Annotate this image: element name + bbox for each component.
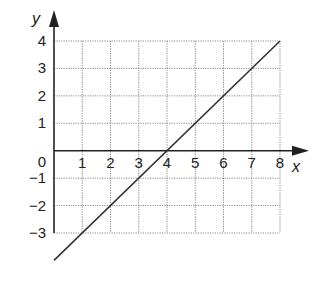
- x-tick-label: 2: [106, 154, 114, 171]
- y-axis-arrow-icon: [49, 10, 59, 27]
- x-axis-arrow-icon: [292, 146, 309, 156]
- tick-labels: 1234567843210−1−2−3: [29, 32, 284, 241]
- y-tick-label: 4: [38, 32, 46, 49]
- x-tick-label: 3: [135, 154, 143, 171]
- y-tick-label: 2: [38, 87, 46, 104]
- x-axis-label: x: [291, 158, 301, 175]
- line-chart: 1234567843210−1−2−3 y x: [0, 0, 325, 287]
- x-tick-label: 1: [78, 154, 86, 171]
- y-tick-label: 1: [38, 114, 46, 131]
- y-tick-label: −1: [29, 169, 46, 186]
- grid-lines: [54, 41, 280, 233]
- x-tick-label: 4: [163, 154, 171, 171]
- x-tick-label: 7: [248, 154, 256, 171]
- y-tick-label: 0: [38, 153, 46, 170]
- x-tick-label: 5: [191, 154, 199, 171]
- axes: [49, 10, 309, 233]
- x-tick-label: 8: [276, 154, 284, 171]
- x-tick-label: 6: [219, 154, 227, 171]
- y-tick-label: 3: [38, 59, 46, 76]
- y-tick-label: −3: [29, 224, 46, 241]
- y-tick-label: −2: [29, 197, 46, 214]
- y-axis-label: y: [31, 10, 41, 27]
